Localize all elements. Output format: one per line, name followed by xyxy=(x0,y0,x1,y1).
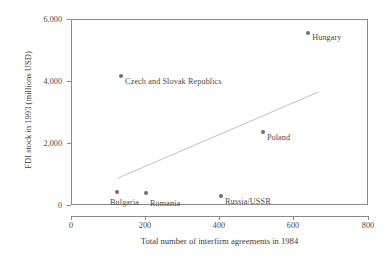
xtick-mark-0 xyxy=(71,216,72,220)
data-label-poland: Poland xyxy=(267,133,290,142)
ytick-mark-2000 xyxy=(67,143,71,144)
x-axis-title: Total number of interfirm agreements in … xyxy=(71,236,368,246)
ytick-mark-4000 xyxy=(67,81,71,82)
xtick-mark-200 xyxy=(145,216,146,220)
data-label-romania: Romania xyxy=(150,199,180,208)
data-point-poland xyxy=(261,130,265,134)
scatter-chart: 0 2,000 4,000 6,000 0 200 400 600 800 Hu… xyxy=(0,0,388,259)
plot-area xyxy=(71,19,368,205)
y-axis-title: FDI stock in 1993 (millions USD) xyxy=(23,15,33,205)
xtick-mark-800 xyxy=(368,216,369,220)
data-point-bulgaria xyxy=(115,190,119,194)
xtick-label-400: 400 xyxy=(199,221,239,230)
data-label-bulgaria: Bulgaria xyxy=(110,198,139,207)
data-point-romania xyxy=(144,191,148,195)
xtick-mark-400 xyxy=(219,216,220,220)
xtick-label-800: 800 xyxy=(348,221,388,230)
ytick-mark-0 xyxy=(67,205,71,206)
xtick-label-600: 600 xyxy=(273,221,313,230)
xtick-label-0: 0 xyxy=(51,221,91,230)
data-point-hungary xyxy=(306,31,310,35)
data-point-russia-ussr xyxy=(219,194,223,198)
ytick-mark-6000 xyxy=(67,19,71,20)
data-point-czech-and-slovak-republics xyxy=(119,74,123,78)
data-label-czech-and-slovak-republics: Czech and Slovak Republics xyxy=(125,77,222,86)
xtick-label-200: 200 xyxy=(125,221,165,230)
data-label-hungary: Hungary xyxy=(312,33,341,42)
data-label-russia-ussr: Russia/USSR xyxy=(225,197,271,206)
xtick-mark-600 xyxy=(293,216,294,220)
